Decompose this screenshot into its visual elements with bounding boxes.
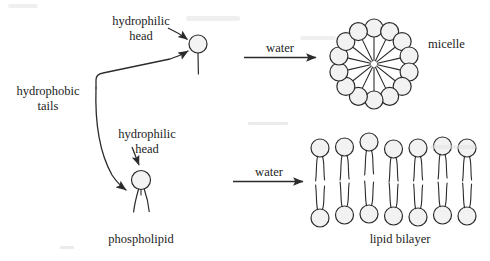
micelle-tail (376, 67, 386, 88)
micelle-structure (330, 19, 418, 109)
scan-artifact (186, 16, 240, 21)
label-hydrophilic-head-top: hydrophilic head (104, 14, 178, 43)
label-water-bottom: water (234, 165, 304, 179)
phospholipid-head-circle (132, 171, 151, 190)
label-lipid-bilayer: lipid bilayer (340, 232, 460, 246)
bilayer-head-bottom (360, 205, 378, 223)
label-phospholipid: phospholipid (91, 232, 191, 246)
label-line-1: hydrophilic (110, 127, 184, 142)
label-hydrophilic-head-mid: hydrophilic head (110, 127, 184, 156)
bilayer-head-top (336, 138, 354, 156)
bilayer-head-bottom (311, 209, 329, 227)
micelle-head-circle (400, 47, 418, 65)
bilayer-tail-bottom-left (316, 185, 318, 210)
bilayer-tail-top-left (389, 157, 391, 182)
label-line-2: head (110, 142, 184, 157)
figure-canvas: hydrophilic head hydrophobic tails hydro… (0, 0, 490, 261)
label-line-2: tails (6, 99, 90, 114)
bilayer-tail-bottom-right (445, 183, 447, 207)
bilayer-head-top (360, 133, 378, 151)
bilayer-tail-bottom-right (371, 182, 373, 206)
bilayer-head-bottom (458, 207, 476, 225)
lipid-head-circle (189, 35, 207, 53)
scan-artifact (60, 246, 74, 249)
micelle-head-circle (365, 19, 383, 37)
bilayer-tail-bottom-right (420, 185, 422, 209)
lipid-assembly-diagram (0, 0, 490, 261)
bilayer-tail-top-left (414, 156, 416, 181)
connector-arrow-to-single-tail (96, 51, 188, 88)
bilayer-tail-bottom-left (463, 183, 465, 208)
micelle-tail (363, 67, 373, 88)
bilayer-tail-top-left (365, 150, 367, 175)
label-micelle: micelle (428, 37, 486, 51)
bilayer-tail-top-left (316, 156, 318, 181)
bilayer-tail-bottom-right (396, 184, 398, 208)
label-line-1: hydrophilic (104, 14, 178, 29)
bilayer-tail-top-left (340, 155, 342, 180)
micelle-tail (376, 40, 386, 61)
bilayer-tail-top-right (469, 156, 471, 180)
bilayer-tail-top-right (445, 154, 447, 178)
bilayer-tail-bottom-left (365, 181, 367, 206)
bilayer-tail-bottom-right (469, 184, 471, 208)
label-line-1: hydrophobic (6, 84, 90, 99)
bilayer-tail-top-right (322, 156, 324, 180)
label-water-top: water (244, 41, 316, 55)
micelle-head-circle (381, 87, 399, 105)
bilayer-tail-top-right (347, 155, 349, 179)
bilayer-head-bottom (385, 207, 403, 225)
bilayer-tail-bottom-left (340, 182, 342, 207)
label-line-2: head (104, 29, 178, 44)
label-hydrophobic-tails: hydrophobic tails (6, 84, 90, 113)
bilayer-tail-bottom-right (322, 186, 324, 210)
micelle-head-circle (349, 23, 367, 41)
bilayer-tail-bottom-left (438, 182, 440, 207)
bilayer-tail-top-left (438, 154, 440, 179)
bilayer-tail-bottom-left (414, 184, 416, 209)
bilayer-head-top (311, 139, 329, 157)
hydrophobic-tails-connector (96, 51, 188, 190)
scan-artifact (430, 145, 476, 149)
phospholipid-tail-left (134, 189, 139, 212)
scan-artifact (248, 122, 288, 125)
bilayer-tail-bottom-right (347, 183, 349, 207)
bilayer-head-top (409, 139, 427, 157)
bilayer-head-bottom (336, 206, 354, 224)
phospholipid-tail-right (144, 189, 149, 212)
micelle-tail (363, 40, 373, 61)
bilayer-tail-top-right (396, 157, 398, 181)
bilayer-head-bottom (434, 206, 452, 224)
phospholipid-molecule (132, 171, 151, 213)
single-tail-lipid (189, 35, 207, 74)
scan-artifact (8, 4, 38, 8)
scan-artifact (300, 36, 336, 40)
bilayer-tail-top-left (463, 156, 465, 181)
bilayer-head-top (385, 140, 403, 158)
micelle-head-circle (330, 63, 348, 81)
bilayer-tail-bottom-left (389, 183, 391, 208)
bilayer-tail-top-right (420, 156, 422, 180)
bilayer-tail-top-right (371, 150, 373, 174)
bilayer-head-bottom (409, 208, 427, 226)
micelle-head-circle (365, 91, 383, 109)
